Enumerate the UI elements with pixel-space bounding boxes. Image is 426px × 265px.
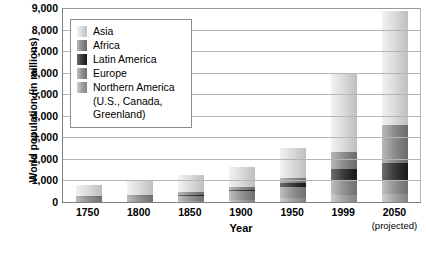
- bar-stack[interactable]: [76, 185, 102, 202]
- bar-segment[interactable]: [382, 194, 408, 202]
- bar-segment[interactable]: [382, 180, 408, 194]
- legend-label-northern-america-line2: (U.S., Canada,: [93, 95, 185, 108]
- bar-segment[interactable]: [331, 195, 357, 202]
- x-axis-title: Year: [62, 222, 420, 234]
- bar-stack[interactable]: [280, 148, 306, 202]
- legend-label-europe: Europe: [93, 67, 127, 80]
- population-stacked-bar-chart: World population (in millions) 9,0008,00…: [0, 0, 426, 265]
- legend-swatch-latin-america-icon: [77, 54, 87, 65]
- legend-label-africa: Africa: [93, 39, 120, 52]
- bar-segment[interactable]: [280, 187, 306, 199]
- legend-swatch-africa-icon: [77, 40, 87, 51]
- bar-stack[interactable]: [127, 181, 153, 202]
- bar-segment[interactable]: [229, 167, 255, 187]
- legend-item-europe: Europe: [77, 67, 185, 80]
- gridline: [63, 180, 421, 181]
- bar-segment[interactable]: [280, 198, 306, 202]
- bar-stack[interactable]: [178, 175, 204, 202]
- y-tick-label: 4,000: [14, 110, 58, 122]
- bar-segment[interactable]: [229, 191, 255, 200]
- legend-item-africa: Africa: [77, 39, 185, 52]
- y-tick-label: 5,000: [14, 88, 58, 100]
- bar-segment[interactable]: [331, 180, 357, 196]
- y-tick-label: 2,000: [14, 153, 58, 165]
- legend-item-northern-america: Northern America: [77, 81, 185, 94]
- legend-swatch-europe-icon: [77, 68, 87, 79]
- bar-segment[interactable]: [382, 125, 408, 163]
- bar-stack[interactable]: [382, 11, 408, 202]
- bar-segment[interactable]: [178, 201, 204, 202]
- bar-segment[interactable]: [229, 200, 255, 202]
- chart-legend: Asia Africa Latin America Europe Norther…: [70, 19, 192, 128]
- y-tick-label: 1,000: [14, 174, 58, 186]
- y-tick-label: 7,000: [14, 45, 58, 57]
- gridline: [63, 137, 421, 138]
- y-axis-tick-labels: 9,0008,0007,0006,0005,0004,0003,0002,000…: [14, 8, 58, 202]
- bar-segment[interactable]: [178, 175, 204, 192]
- legend-label-northern-america: Northern America: [93, 81, 175, 94]
- bar-segment[interactable]: [76, 185, 102, 196]
- bar-segment[interactable]: [280, 148, 306, 178]
- legend-swatch-asia-icon: [77, 26, 87, 37]
- y-tick-label: 9,000: [14, 2, 58, 14]
- legend-item-latin-america: Latin America: [77, 53, 185, 66]
- bar-segment[interactable]: [331, 74, 357, 152]
- bar-stack[interactable]: [229, 167, 255, 202]
- gridline: [63, 159, 421, 160]
- legend-swatch-northern-america-icon: [77, 82, 87, 93]
- legend-label-asia: Asia: [93, 25, 113, 38]
- y-tick-label: 3,000: [14, 131, 58, 143]
- bar-segment[interactable]: [127, 181, 153, 195]
- y-tick-label: 8,000: [14, 24, 58, 36]
- bar-segment[interactable]: [331, 152, 357, 169]
- bar-segment[interactable]: [331, 169, 357, 180]
- legend-label-latin-america: Latin America: [93, 53, 157, 66]
- legend-label-northern-america-line3: Greenland): [93, 108, 185, 121]
- bar-segment[interactable]: [382, 11, 408, 125]
- bar-segment[interactable]: [382, 163, 408, 180]
- legend-item-asia: Asia: [77, 25, 185, 38]
- y-tick-label: 6,000: [14, 67, 58, 79]
